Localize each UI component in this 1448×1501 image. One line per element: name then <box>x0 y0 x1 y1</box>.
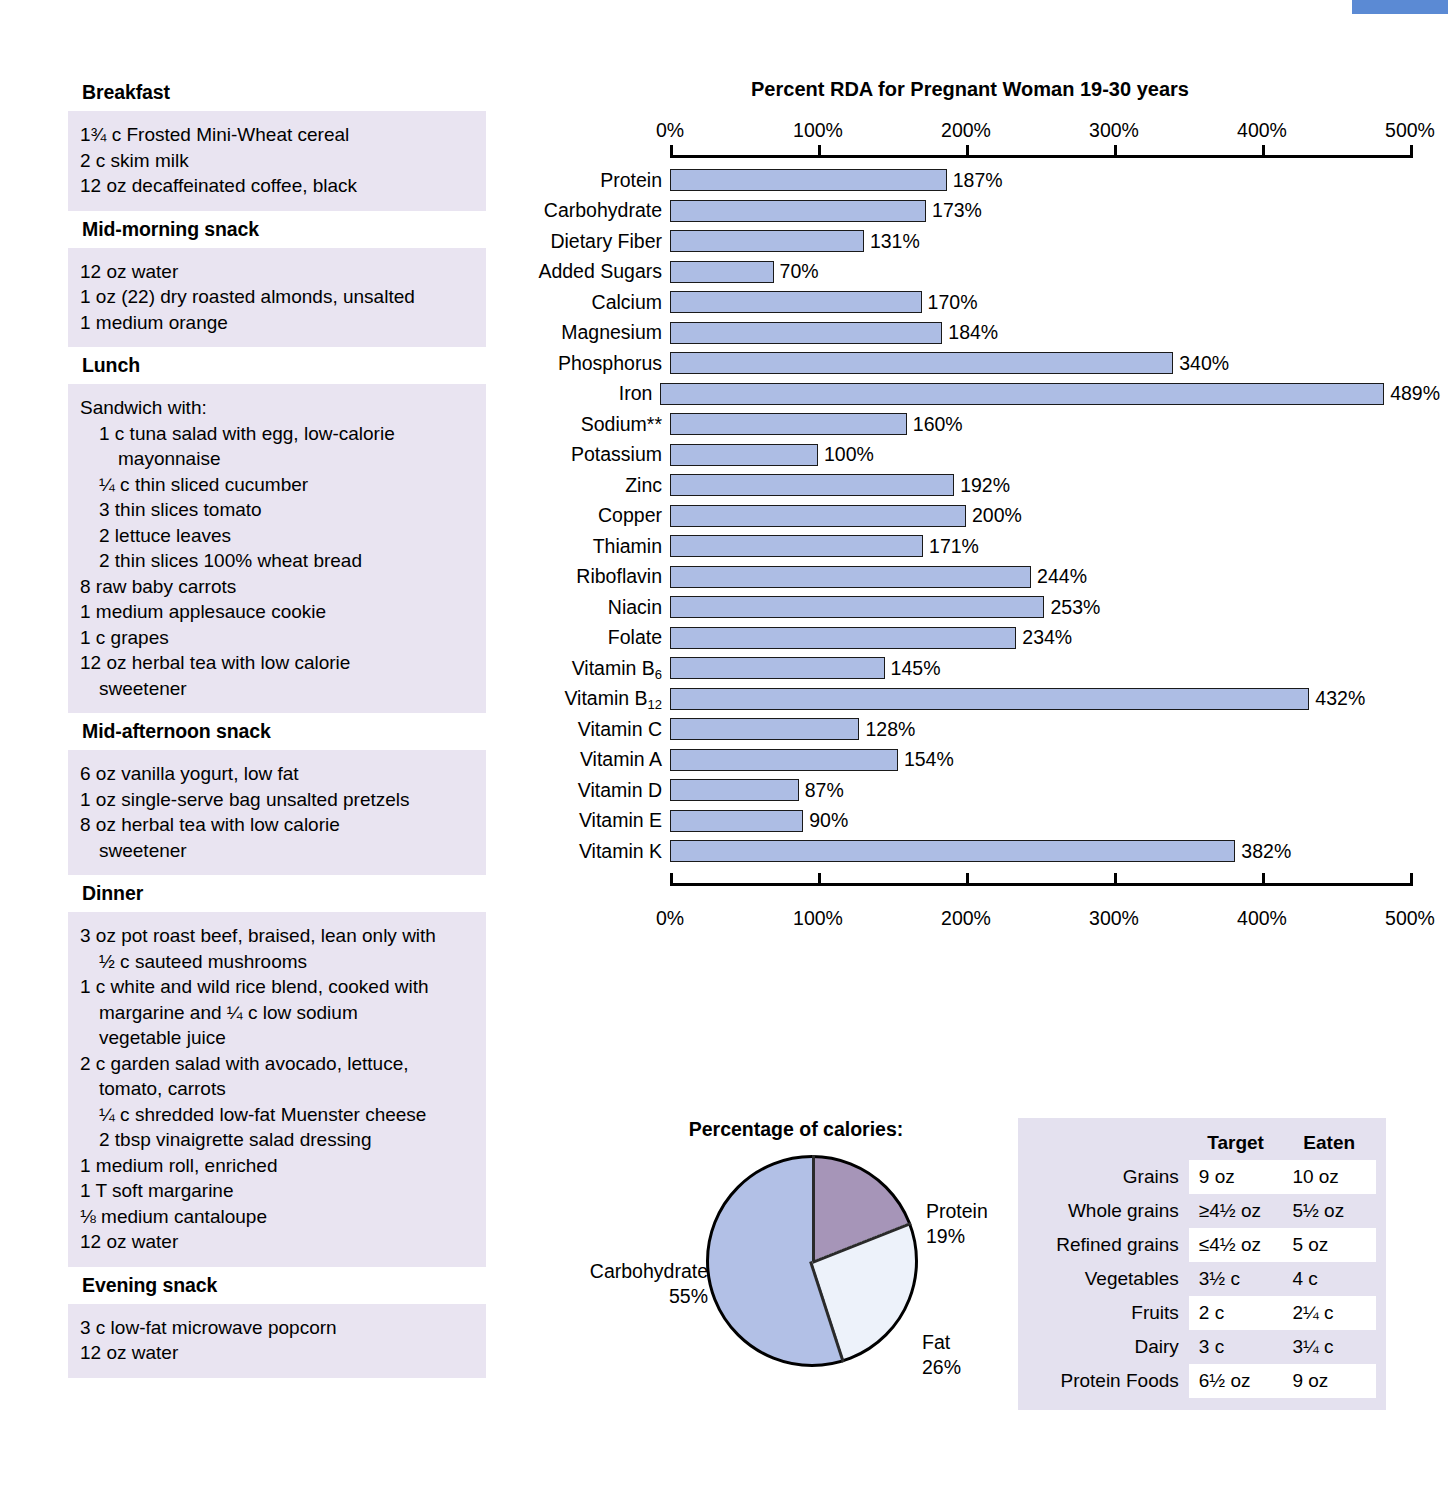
bar-fill <box>670 291 922 313</box>
meal-item: 1¾ c Frosted Mini-Wheat cereal <box>80 122 474 148</box>
axis-tick <box>670 145 673 158</box>
bar-value-label: 244% <box>1037 565 1087 588</box>
axis-tick-label: 400% <box>1237 119 1287 142</box>
pie-chart-title: Percentage of calories: <box>646 1118 946 1141</box>
axis-tick-label: 100% <box>793 119 843 142</box>
table-header-eaten: Eaten <box>1282 1126 1376 1160</box>
meal-item: 1 oz (22) dry roasted almonds, unsalted <box>80 284 474 310</box>
x-axis-labels-bottom: 0%100%200%300%400%500% <box>500 907 1440 933</box>
meal-item-box: 6 oz vanilla yogurt, low fat1 oz single-… <box>68 750 486 875</box>
bar-fill <box>670 749 898 771</box>
bar-category-label: Protein <box>500 171 670 191</box>
bar-track: 154% <box>670 745 1440 776</box>
meal-item: ¼ c shredded low-fat Muenster cheese <box>80 1102 474 1128</box>
bar-value-label: 187% <box>953 169 1003 192</box>
meal-item: 1 medium applesauce cookie <box>80 599 474 625</box>
table-cell-eaten: 5 oz <box>1282 1228 1376 1262</box>
bar-fill <box>670 200 926 222</box>
bar-category-label: Niacin <box>500 598 670 618</box>
table-row: Refined grains≤4½ oz5 oz <box>1026 1228 1376 1262</box>
table-cell-target: ≥4½ oz <box>1189 1194 1283 1228</box>
meal-item: 12 oz water <box>80 1229 474 1255</box>
axis-tick <box>966 873 969 886</box>
table-cell-target: 3 c <box>1189 1330 1283 1364</box>
table-header-row: Target Eaten <box>1026 1126 1376 1160</box>
table-header-blank <box>1026 1126 1189 1160</box>
bar-track: 145% <box>670 653 1440 684</box>
bar-track: 90% <box>670 806 1440 837</box>
meal-item: 12 oz water <box>80 1340 474 1366</box>
bar-fill <box>670 688 1309 710</box>
bar-track: 253% <box>670 592 1440 623</box>
axis-tick <box>818 145 821 158</box>
bar-category-label: Vitamin E <box>500 811 670 831</box>
bar-value-label: 170% <box>928 291 978 314</box>
bar-track: 382% <box>670 836 1440 867</box>
meal-item: 12 oz decaffeinated coffee, black <box>80 173 474 199</box>
bar-value-label: 171% <box>929 535 979 558</box>
axis-tick-label: 300% <box>1089 907 1139 930</box>
bar-row: Potassium100% <box>500 440 1440 471</box>
bar-fill <box>670 840 1235 862</box>
meal-item: sweetener <box>80 676 474 702</box>
bar-value-label: 253% <box>1050 596 1100 619</box>
meal-item: 8 oz herbal tea with low calorie <box>80 812 474 838</box>
table-cell-food-group: Dairy <box>1026 1330 1189 1364</box>
bar-row: Iron489% <box>500 379 1440 410</box>
table-cell-target: 6½ oz <box>1189 1364 1283 1398</box>
bar-value-label: 184% <box>948 321 998 344</box>
meal-heading: Evening snack <box>68 1271 486 1304</box>
bar-track: 100% <box>670 440 1440 471</box>
bar-track: 170% <box>670 287 1440 318</box>
bar-category-label: Vitamin C <box>500 720 670 740</box>
meal-item: 3 c low-fat microwave popcorn <box>80 1315 474 1341</box>
meal-item: vegetable juice <box>80 1025 474 1051</box>
bar-track: 340% <box>670 348 1440 379</box>
table-cell-eaten: 5½ oz <box>1282 1194 1376 1228</box>
bar-fill <box>670 627 1016 649</box>
meal-item: mayonnaise <box>80 446 474 472</box>
bar-fill <box>670 657 885 679</box>
axis-tick <box>1114 873 1117 886</box>
bar-track: 244% <box>670 562 1440 593</box>
bar-category-label: Sodium** <box>500 415 670 435</box>
bar-value-label: 173% <box>932 199 982 222</box>
meal-item: 1 c white and wild rice blend, cooked wi… <box>80 974 474 1000</box>
meal-item: tomato, carrots <box>80 1076 474 1102</box>
pie-label-protein-value: 19% <box>926 1225 965 1247</box>
bar-track: 489% <box>660 379 1440 410</box>
axis-tick <box>1410 873 1413 886</box>
bar-track: 128% <box>670 714 1440 745</box>
axis-tick-label: 300% <box>1089 119 1139 142</box>
bar-row: Vitamin B12432% <box>500 684 1440 715</box>
bar-row: Protein187% <box>500 165 1440 196</box>
bar-track: 200% <box>670 501 1440 532</box>
page-edge-bleed-bar <box>1352 0 1448 14</box>
bar-category-label: Vitamin B12 <box>500 689 670 709</box>
meal-item: ⅛ medium cantaloupe <box>80 1204 474 1230</box>
bar-fill <box>670 566 1031 588</box>
pie-label-carbohydrate-value: 55% <box>669 1285 708 1307</box>
bar-fill <box>670 474 954 496</box>
bar-track: 160% <box>670 409 1440 440</box>
axis-tick-label: 200% <box>941 907 991 930</box>
meal-item-box: Sandwich with:1 c tuna salad with egg, l… <box>68 384 486 713</box>
meal-item: 2 c garden salad with avocado, lettuce, <box>80 1051 474 1077</box>
bar-value-label: 432% <box>1315 687 1365 710</box>
bar-category-label: Carbohydrate <box>500 201 670 221</box>
meal-item: 1 oz single-serve bag unsalted pretzels <box>80 787 474 813</box>
axis-tick <box>966 145 969 158</box>
bar-track: 184% <box>670 318 1440 349</box>
bar-row: Vitamin C128% <box>500 714 1440 745</box>
bar-row: Vitamin B6145% <box>500 653 1440 684</box>
meal-item: 2 tbsp vinaigrette salad dressing <box>80 1127 474 1153</box>
pie-wrap: Protein 19% Fat 26% Carbohydrate 55% <box>596 1155 1016 1405</box>
meal-heading: Mid-afternoon snack <box>68 717 486 750</box>
bar-value-label: 100% <box>824 443 874 466</box>
meal-item: 2 c skim milk <box>80 148 474 174</box>
bar-category-label: Vitamin K <box>500 842 670 862</box>
meal-item: 1 c grapes <box>80 625 474 651</box>
pie-label-fat-name: Fat <box>922 1331 950 1353</box>
table-cell-food-group: Whole grains <box>1026 1194 1189 1228</box>
table-cell-eaten: 4 c <box>1282 1262 1376 1296</box>
